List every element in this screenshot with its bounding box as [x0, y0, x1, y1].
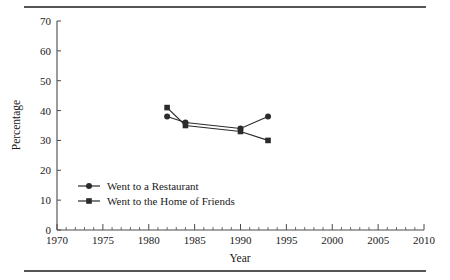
y-tick-label: 20 [40, 164, 52, 176]
data-point-square [265, 138, 271, 144]
x-tick-label: 1970 [46, 234, 69, 246]
x-tick-label: 2000 [321, 234, 344, 246]
chart-legend: Went to a RestaurantWent to the Home of … [78, 180, 235, 207]
x-tick-label: 1995 [275, 234, 298, 246]
chart-figure: 010203040506070 197019751980198519901995… [0, 0, 450, 280]
x-tick-label: 1980 [138, 234, 161, 246]
series-line-1 [167, 108, 268, 141]
y-axis-ticks [57, 21, 61, 230]
y-tick-label: 70 [40, 15, 52, 27]
y-tick-label: 40 [40, 105, 52, 117]
y-tick-label: 60 [40, 45, 52, 57]
data-point-square [238, 129, 244, 135]
legend-label-0: Went to a Restaurant [107, 180, 199, 192]
legend-label-1: Went to the Home of Friends [107, 195, 235, 207]
chart-series-markers [164, 105, 271, 143]
line-chart: 010203040506070 197019751980198519901995… [0, 0, 450, 280]
data-point-square [164, 105, 170, 111]
data-point-circle [164, 114, 170, 120]
chart-series-lines [167, 108, 268, 141]
y-axis-tick-labels: 010203040506070 [40, 15, 52, 236]
legend-marker-circle [86, 183, 92, 189]
y-axis-title: Percentage [10, 100, 23, 150]
x-axis-title: Year [229, 252, 250, 264]
x-tick-label: 2005 [367, 234, 390, 246]
data-point-circle [265, 114, 271, 120]
x-tick-label: 1990 [230, 234, 253, 246]
y-tick-label: 50 [40, 75, 52, 87]
y-tick-label: 10 [40, 194, 52, 206]
data-point-square [183, 123, 189, 129]
x-axis-tick-labels: 197019751980198519901995200020052010 [46, 234, 436, 246]
x-tick-label: 1985 [184, 234, 207, 246]
legend-marker-square [86, 198, 92, 204]
x-tick-label: 1975 [92, 234, 115, 246]
x-tick-label: 2010 [413, 234, 436, 246]
y-tick-label: 30 [40, 134, 52, 146]
